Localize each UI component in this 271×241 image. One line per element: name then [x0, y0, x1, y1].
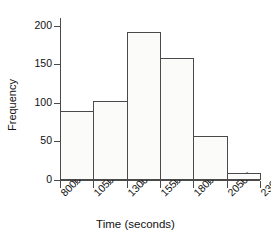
histogram-bar: [127, 32, 161, 180]
y-axis-tick-label: 50: [12, 134, 52, 146]
histogram-bar: [193, 136, 227, 180]
y-axis-tick-label: 200: [12, 19, 52, 31]
y-axis-tick-label: 100: [12, 96, 52, 108]
histogram-bar: [227, 173, 261, 180]
histogram-bar: [160, 58, 194, 180]
x-axis-minor-tick: [77, 181, 78, 185]
histogram-bars: [60, 18, 260, 180]
x-axis-minor-tick: [177, 181, 178, 185]
histogram-bar: [60, 111, 94, 180]
histogram-figure: Frequency 050100150200 80001050013000155…: [0, 0, 271, 241]
y-axis-tick-label: 150: [12, 57, 52, 69]
x-axis-minor-tick: [143, 181, 144, 185]
y-axis-tick-label: 0: [12, 173, 52, 185]
x-axis-title: Time (seconds): [0, 218, 271, 230]
x-axis-minor-tick: [243, 181, 244, 185]
histogram-bar: [93, 101, 127, 180]
x-axis-minor-tick: [210, 181, 211, 185]
x-axis-minor-tick: [110, 181, 111, 185]
